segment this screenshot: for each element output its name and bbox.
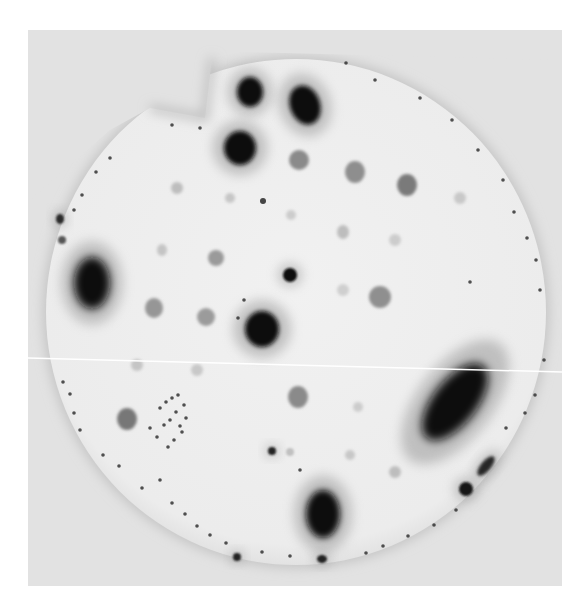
spot-grey-3 (397, 174, 417, 196)
spot-top-dark-1 (237, 77, 263, 107)
spot-dot-2 (268, 447, 276, 455)
spot-bottom-dot-1 (233, 553, 241, 561)
spot-top-dark-2 (224, 131, 256, 165)
spot-faint-13 (389, 466, 401, 478)
spot-faint-14 (345, 450, 355, 460)
spot-center-dark (245, 311, 279, 347)
spot-grey-7 (197, 308, 215, 326)
spot-faint-10 (191, 364, 203, 376)
spot-grey-1 (289, 150, 309, 170)
spot-left-dark-blob (74, 257, 110, 309)
spot-faint-4 (337, 225, 349, 239)
spot-grey-6 (145, 298, 163, 318)
spot-right-edge-dot (459, 482, 473, 496)
spot-dot-1 (260, 198, 266, 204)
spot-grey-4 (208, 250, 224, 266)
spot-faint-7 (157, 244, 167, 256)
spot-grey-2 (345, 161, 365, 183)
spot-bottom-dot-2 (317, 555, 327, 563)
autoradiograph-frame (28, 30, 562, 586)
spot-faint-12 (286, 448, 294, 456)
spot-faint-2 (225, 193, 235, 203)
spot-left-edge-dot-1 (56, 214, 64, 224)
spot-faint-11 (353, 402, 363, 412)
spot-left-edge-dot-2 (58, 236, 66, 244)
spot-grey-9 (117, 408, 137, 430)
spot-grey-5 (369, 286, 391, 308)
spot-faint-1 (171, 182, 183, 194)
spot-faint-5 (454, 192, 466, 204)
spot-faint-3 (286, 210, 296, 220)
spot-bottom-dark-teardrop (306, 490, 340, 538)
membrane-image (28, 30, 562, 586)
spot-dark-small-center (283, 268, 297, 282)
spot-faint-8 (337, 284, 349, 296)
image-stage (0, 0, 584, 613)
spot-faint-6 (389, 234, 401, 246)
spot-grey-8 (288, 386, 308, 408)
